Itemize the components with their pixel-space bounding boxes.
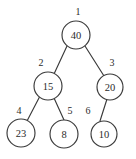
- tree-node-1: 40: [62, 21, 90, 49]
- node-value-4: 23: [16, 128, 27, 139]
- node-value-1: 40: [71, 30, 82, 41]
- tree-diagram-canvas: 40152023810 123456: [0, 0, 136, 159]
- binary-tree-figure: 40152023810 123456: [0, 0, 136, 159]
- tree-edge-2-4: [27, 96, 40, 121]
- tree-nodes-group: 40152023810: [7, 21, 123, 148]
- tree-indices-group: 123456: [17, 6, 115, 116]
- node-index-label-1: 1: [76, 6, 81, 17]
- tree-edge-1-2: [54, 46, 67, 74]
- tree-node-4: 23: [7, 119, 35, 147]
- tree-edge-3-6: [100, 99, 107, 121]
- tree-node-6: 10: [91, 121, 117, 147]
- node-index-label-2: 2: [39, 57, 44, 68]
- node-index-label-4: 4: [17, 105, 22, 116]
- tree-edge-2-5: [54, 98, 64, 120]
- tree-node-2: 15: [34, 72, 62, 100]
- node-value-6: 10: [99, 129, 110, 140]
- node-index-label-5: 5: [68, 105, 73, 116]
- node-value-2: 15: [43, 81, 54, 92]
- node-index-label-6: 6: [86, 105, 91, 116]
- node-value-3: 20: [105, 82, 116, 93]
- node-value-5: 8: [61, 129, 66, 140]
- tree-edge-1-3: [85, 46, 104, 76]
- tree-node-5: 8: [50, 120, 78, 148]
- tree-node-3: 20: [97, 74, 123, 100]
- node-index-label-3: 3: [110, 57, 115, 68]
